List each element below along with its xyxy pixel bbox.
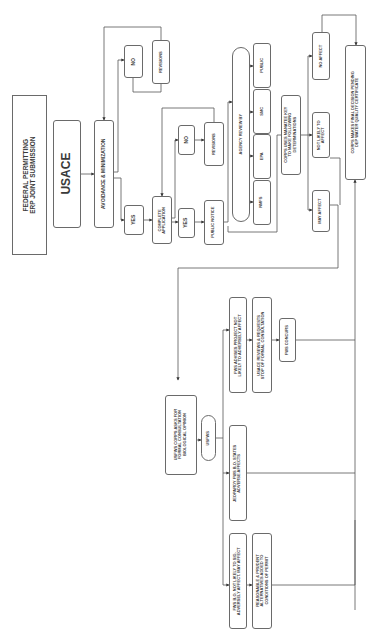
agency-review-box: AGENCY REVIEW BY — [232, 47, 250, 222]
no-box-second: NO — [178, 125, 195, 155]
yes-box-2: YES — [178, 208, 195, 238]
bo-not-likely-box: FWS B.O. NOT LIKELY TO SIG. ADVERSELY AF… — [229, 533, 247, 629]
manatee-key-box: CORPS USES MANATEE KEY TO MAKE FOLLOWING… — [281, 95, 301, 175]
fws-advises-box: FWS ADVISES PROJECT NOT LIKELY TO ADVERS… — [229, 297, 247, 393]
usace-reviews-box: USACE REVIEWS & REQUESTS STOP OF FORMAL … — [252, 297, 272, 393]
jeopardy-box: JEOPARDY FWS B.O. STATES ADVERSE AFFECTS — [229, 425, 247, 521]
not-likely-box: NOT LIKELY TO AFFECT — [312, 112, 330, 158]
agency-public: PUBLIC — [253, 43, 271, 88]
public-notice-box: PUBLIC NOTICE — [204, 200, 224, 245]
final-decision-box: CORPS MAKES FINAL DECISION PENDING DEP W… — [345, 45, 366, 180]
connector-lines — [0, 0, 377, 630]
usace-box: USACE — [53, 120, 81, 228]
usace-label: USACE — [60, 153, 73, 195]
diagram-title: FEDERAL PERMITTING ERP JOINT SUBMISSION — [22, 136, 36, 213]
agency-epa: EPA — [253, 134, 271, 179]
yes-box-1: YES — [124, 205, 144, 235]
avoidance-label: AVOIDANCE & MINIMIZATION — [101, 139, 107, 209]
no-affect-box: NO AFFECT — [312, 32, 330, 80]
avoidance-box: AVOIDANCE & MINIMIZATION — [94, 120, 114, 228]
agency-nmfs: NMFS — [253, 180, 271, 225]
reasonable-prudent-box: REASONABLE & PRUDENT ALTERNATIVES ADDED … — [252, 533, 272, 629]
permitting-flowchart: FEDERAL PERMITTING ERP JOINT SUBMISSION … — [0, 0, 377, 630]
revisions-box-top: REVISIONS — [152, 40, 170, 84]
agency-smc: SMC — [253, 89, 271, 134]
no-box-top: NO — [124, 45, 143, 78]
may-affect-box: MAY AFFECT — [312, 190, 330, 232]
complete-application-box: COMPLETE APPLICATION — [152, 196, 172, 244]
title-box: FEDERAL PERMITTING ERP JOINT SUBMISSION — [12, 95, 47, 255]
fws-concurs-box: FWS CONCURS — [279, 318, 296, 362]
revisions-box-second: REVISIONS — [204, 122, 224, 166]
consultation-request-box: USFWS CORPS ASKS FOR FORMAL CONSULTATION… — [165, 395, 197, 475]
usfws-box: USFWS — [201, 415, 216, 461]
